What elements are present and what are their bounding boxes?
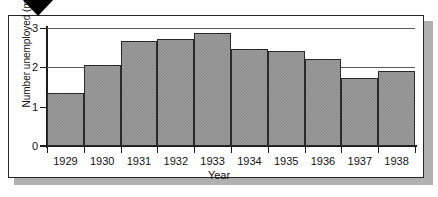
x-axis-tick	[84, 147, 85, 153]
y-axis-tick-label: 0	[18, 141, 38, 151]
x-axis-tick-label: 1938	[377, 155, 417, 167]
x-axis-tick	[231, 147, 232, 153]
bar	[84, 65, 121, 146]
y-axis-tick-label: 3	[18, 23, 38, 33]
plot-area	[47, 28, 415, 146]
x-axis-title: Year	[0, 169, 438, 181]
bar	[194, 33, 231, 146]
bar	[341, 78, 378, 146]
bar	[268, 51, 305, 146]
x-axis-tick	[47, 147, 48, 153]
y-axis-tick-label: 1	[18, 102, 38, 112]
x-axis-tick-label: 1932	[156, 155, 196, 167]
x-axis-tick	[305, 147, 306, 153]
x-axis-tick-label: 1936	[303, 155, 343, 167]
x-axis-tick-label: 1937	[340, 155, 380, 167]
y-axis-tick	[40, 146, 47, 147]
bar	[121, 41, 158, 146]
x-axis-tick	[415, 147, 416, 153]
y-axis-tick-label: 2	[18, 62, 38, 72]
y-axis-title: Number unemployed (millions)	[21, 0, 32, 108]
x-axis-tick	[121, 147, 122, 153]
y-axis-tick	[40, 28, 47, 29]
scanned-page: Number unemployed (millions) 0123 192919…	[0, 0, 438, 197]
x-axis-tick-label: 1929	[45, 155, 85, 167]
x-axis-tick-label: 1934	[229, 155, 269, 167]
y-axis-tick	[40, 67, 47, 68]
x-axis-tick	[194, 147, 195, 153]
bar	[378, 71, 415, 146]
x-axis-tick	[378, 147, 379, 153]
x-axis-tick	[157, 147, 158, 153]
x-axis-tick	[341, 147, 342, 153]
bar	[157, 39, 194, 146]
gridline	[47, 28, 415, 29]
y-axis-tick	[40, 107, 47, 108]
x-axis-tick-label: 1930	[82, 155, 122, 167]
x-axis-tick	[268, 147, 269, 153]
x-axis-tick-label: 1935	[266, 155, 306, 167]
x-axis-tick-label: 1933	[193, 155, 233, 167]
bar	[47, 93, 84, 146]
x-axis-tick-label: 1931	[119, 155, 159, 167]
bar	[305, 59, 342, 146]
bar-chart: Number unemployed (millions) 0123 192919…	[0, 0, 438, 197]
bar	[231, 49, 268, 146]
